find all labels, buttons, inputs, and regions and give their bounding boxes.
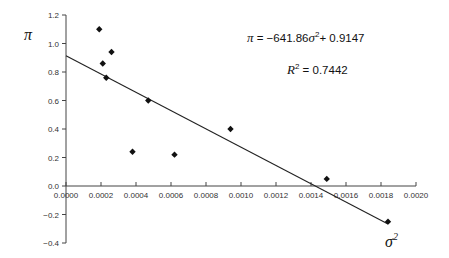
data-point-diamond bbox=[129, 149, 135, 155]
y-tick-label: −0.4 bbox=[43, 239, 59, 248]
x-tick-label: 0.0000 bbox=[54, 191, 79, 200]
r-squared-label: R2 = 0.7442 bbox=[286, 62, 348, 77]
data-point-diamond bbox=[227, 126, 233, 132]
x-tick-label: 0.0012 bbox=[264, 191, 289, 200]
y-tick-label: 0.8 bbox=[48, 68, 60, 77]
x-tick-label: 0.0010 bbox=[229, 191, 254, 200]
x-axis-title-sup: 2 bbox=[393, 231, 398, 242]
y-tick-label: 0.2 bbox=[48, 154, 60, 163]
data-point-diamond bbox=[385, 218, 391, 224]
data-point-diamond bbox=[100, 60, 106, 66]
x-tick-label: 0.0016 bbox=[334, 191, 359, 200]
x-tick-label: 0.0002 bbox=[89, 191, 114, 200]
x-axis-title: σ2 bbox=[385, 231, 398, 250]
data-point-diamond bbox=[171, 151, 177, 157]
trendline bbox=[66, 56, 388, 224]
y-tick-label: 1.0 bbox=[48, 40, 60, 49]
data-point-diamond bbox=[145, 97, 151, 103]
y-tick-label: −0.2 bbox=[43, 211, 59, 220]
data-point-diamond bbox=[324, 176, 330, 182]
x-tick-label: 0.0020 bbox=[404, 191, 429, 200]
y-tick-label: 0.4 bbox=[48, 125, 60, 134]
axes: 1.21.00.80.60.40.20.0−0.2−0.40.00000.000… bbox=[43, 11, 429, 248]
trendline-path bbox=[66, 56, 388, 224]
data-point-diamond bbox=[96, 26, 102, 32]
x-tick-label: 0.0014 bbox=[299, 191, 324, 200]
y-tick-label: 0.6 bbox=[48, 97, 60, 106]
trendline-equation: π = −641.86σ2+ 0.9147 bbox=[247, 30, 364, 45]
data-point-diamond bbox=[108, 49, 114, 55]
y-axis-title: π bbox=[24, 26, 33, 43]
scatter-chart: 1.21.00.80.60.40.20.0−0.2−0.40.00000.000… bbox=[0, 0, 449, 258]
y-tick-label: 1.2 bbox=[48, 11, 60, 20]
x-tick-label: 0.0006 bbox=[159, 191, 184, 200]
x-tick-label: 0.0008 bbox=[194, 191, 219, 200]
x-tick-label: 0.0018 bbox=[369, 191, 394, 200]
y-tick-label: 0.0 bbox=[48, 182, 60, 191]
x-tick-label: 0.0004 bbox=[124, 191, 149, 200]
